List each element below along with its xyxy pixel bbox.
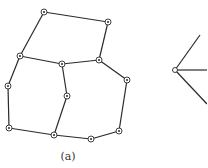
- graph-edge: [44, 12, 108, 22]
- graph-node-center: [7, 85, 9, 87]
- graph-a-nodes: [5, 9, 130, 142]
- graph-edge: [62, 60, 99, 64]
- graph-node-center: [118, 130, 120, 132]
- graph-edge: [119, 80, 127, 131]
- graph-node-center: [66, 95, 68, 97]
- graph-edge: [54, 96, 67, 135]
- graph-node-center: [61, 63, 63, 65]
- graph-edge: [54, 135, 91, 139]
- graph-edge: [20, 12, 44, 56]
- graph-edge: [99, 60, 127, 80]
- graph-node-center: [53, 134, 55, 136]
- graph-edge: [175, 35, 200, 70]
- graph-node-center: [107, 21, 109, 23]
- graph-node-center: [8, 127, 10, 129]
- graph-node-center: [90, 138, 92, 140]
- graph-node-center: [126, 79, 128, 81]
- graph-node-center: [19, 55, 21, 57]
- graph-node-center: [43, 11, 45, 13]
- graph-edge: [99, 22, 108, 60]
- figure-canvas: (a): [0, 0, 207, 168]
- graph-edge: [8, 86, 9, 128]
- graph-node: [173, 68, 178, 73]
- graph-edge: [20, 56, 62, 64]
- graph-node-center: [98, 59, 100, 61]
- graph-edge: [91, 131, 119, 139]
- graph-edge: [9, 128, 54, 135]
- graph-a-edges: [8, 12, 127, 139]
- subfigure-caption-a: (a): [60, 150, 75, 163]
- graph-edge: [8, 56, 20, 86]
- graph-b-partial: [173, 35, 208, 104]
- graph-edge: [175, 70, 207, 104]
- graph-edge: [62, 64, 67, 96]
